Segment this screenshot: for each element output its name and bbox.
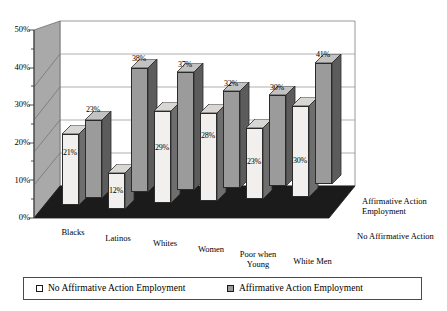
- y-tick-30: 30%: [14, 100, 30, 109]
- bar-poor-when-young-affirmative: [269, 95, 286, 186]
- chart-canvas: 50% 40% 30% 20% 10% 0% 21% 23% 12%: [0, 0, 447, 311]
- bar-label-blacks-no-affirmative: 21%: [63, 148, 77, 157]
- bar-blacks-affirmative: [85, 120, 102, 198]
- y-tick-40: 40%: [14, 63, 30, 72]
- bar-label-latinos-no-affirmative: 12%: [109, 186, 123, 195]
- bar-label-whites-affirmative: 37%: [178, 60, 192, 69]
- legend-label: No Affirmative Action Employment: [48, 283, 185, 294]
- x-label-line: Blacks: [48, 228, 98, 238]
- x-label-line: Whites: [140, 239, 190, 249]
- left-wall: [34, 21, 60, 218]
- x-label-line: Latinos: [93, 234, 143, 244]
- y-tick-0: 0%: [19, 213, 30, 222]
- bar-latinos-affirmative: [131, 68, 148, 192]
- chart-legend: No Affirmative Action Employment Affirma…: [23, 277, 422, 300]
- z-label-line: Employment: [362, 206, 447, 216]
- bar-label-whites-no-affirmative: 29%: [155, 143, 169, 152]
- bar-3d-faces: [315, 54, 342, 184]
- y-tick-10: 10%: [14, 176, 30, 185]
- bar-women-affirmative: [223, 91, 240, 188]
- x-label-line: White Men: [285, 257, 340, 267]
- x-label-line: Young: [227, 260, 289, 270]
- bar-label-white-men-no-affirmative: 30%: [293, 156, 307, 165]
- legend-swatch-white-icon: [36, 285, 43, 292]
- y-tick-50: 50%: [14, 25, 30, 34]
- legend-label: Affirmative Action Employment: [239, 283, 363, 294]
- bar-whites-affirmative: [177, 72, 194, 190]
- z-label-line: No Affirmative Action: [357, 231, 447, 241]
- bar-white-men-no-affirmative: [292, 106, 309, 197]
- x-label-poor-when-young: Poor when Young: [227, 250, 289, 269]
- bar-women-no-affirmative: [200, 113, 217, 201]
- bar-label-poor-when-young-no-affirmative: 23%: [247, 157, 261, 166]
- x-label-white-men: White Men: [285, 257, 340, 267]
- bar-label-white-men-affirmative: 41%: [316, 50, 330, 59]
- bar-label-women-affirmative: 32%: [224, 79, 238, 88]
- bar-label-poor-when-young-affirmative: 30%: [270, 83, 284, 92]
- legend-swatch-gray-icon: [227, 285, 234, 292]
- legend-item-no-affirmative-action-employment[interactable]: No Affirmative Action Employment: [36, 283, 185, 294]
- bar-whites-no-affirmative: [154, 111, 171, 203]
- z-label-line: Affirmative Action: [362, 196, 447, 206]
- bar-label-blacks-affirmative: 23%: [86, 105, 100, 114]
- z-label-no-affirmative-action: No Affirmative Action: [357, 231, 447, 241]
- legend-item-affirmative-action-employment[interactable]: Affirmative Action Employment: [227, 283, 363, 294]
- x-label-latinos: Latinos: [93, 234, 143, 244]
- z-label-affirmative-action-employment: Affirmative Action Employment: [362, 196, 447, 216]
- y-axis-ticks: [29, 30, 34, 218]
- x-label-whites: Whites: [140, 239, 190, 249]
- bar-white-men-affirmative: [315, 63, 332, 184]
- bar-label-women-no-affirmative: 28%: [201, 131, 215, 140]
- bar-blacks-no-affirmative: [62, 134, 79, 205]
- y-tick-20: 20%: [14, 138, 30, 147]
- x-label-blacks: Blacks: [48, 228, 98, 238]
- bar-label-latinos-affirmative: 38%: [132, 54, 146, 63]
